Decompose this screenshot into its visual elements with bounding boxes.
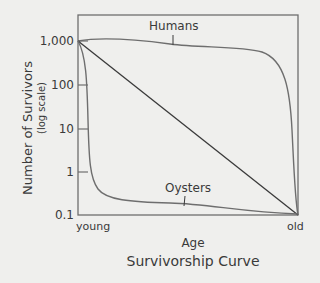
y-axis-title: Number of Survivors: [20, 61, 35, 195]
oysters-label: Oysters: [165, 181, 211, 195]
y-tick-10: 10: [59, 122, 74, 136]
humans-label: Humans: [149, 19, 199, 33]
x-axis-title: Age: [181, 236, 204, 250]
y-tick-100: 100: [51, 78, 74, 92]
y-ticks: [78, 41, 88, 172]
chart-title: Survivorship Curve: [127, 253, 260, 269]
y-axis-subtitle: (log scale): [36, 82, 47, 134]
y-tick-1000: 1,000: [40, 34, 74, 48]
survivorship-chart: 1,000 100 10 1 0.1 Number of Survivors (…: [0, 0, 320, 283]
x-label-old: old: [287, 220, 304, 233]
y-tick-0-1: 0.1: [55, 208, 74, 222]
oysters-leader-line: [184, 196, 185, 206]
y-tick-1: 1: [66, 165, 74, 179]
x-label-young: young: [76, 220, 110, 233]
